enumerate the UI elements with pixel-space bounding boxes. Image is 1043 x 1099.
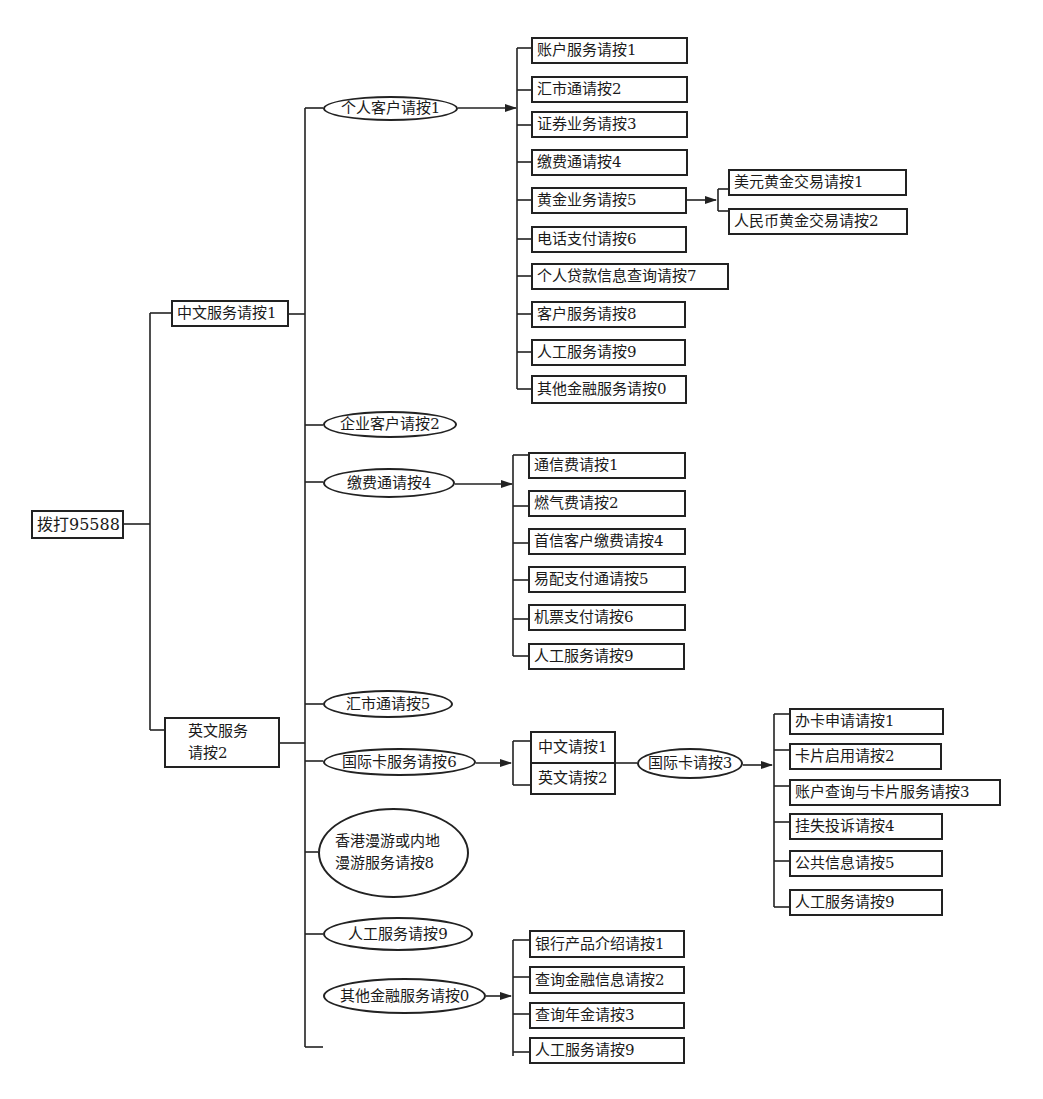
node-label: 易配支付通请按5 — [534, 572, 649, 587]
manual-service-node: 人工服务请按9 — [323, 917, 473, 951]
node-label: 查询年金请按3 — [535, 1008, 635, 1023]
node-label: 挂失投诉请按4 — [795, 819, 895, 834]
node-label: 汇市通请按5 — [346, 697, 431, 712]
node-label: 香港漫游或内地漫游服务请按8 — [335, 831, 453, 875]
node-label: 燃气费请按2 — [534, 496, 619, 511]
node-label: 个人贷款信息查询请按7 — [537, 269, 697, 284]
connector-lines — [0, 0, 1043, 1099]
personal-item: 人工服务请按9 — [531, 339, 686, 366]
payment-item: 机票支付请按6 — [528, 604, 686, 631]
intl-card-item: 卡片启用请按2 — [789, 743, 942, 770]
roaming-service-node: 香港漫游或内地漫游服务请按8 — [318, 808, 469, 898]
personal-item: 账户服务请按1 — [531, 37, 688, 64]
node-label: 黄金业务请按5 — [537, 193, 637, 208]
node-label: 其他金融服务请按0 — [537, 382, 667, 397]
personal-item: 证券业务请按3 — [531, 111, 688, 138]
node-label: 通信费请按1 — [534, 458, 619, 473]
payment-item: 通信费请按1 — [528, 452, 686, 479]
node-label: 美元黄金交易请按1 — [734, 175, 864, 190]
intl-card-service-node: 国际卡服务请按6 — [323, 748, 476, 776]
chinese-service-node: 中文服务请按1 — [171, 300, 289, 327]
personal-item: 个人贷款信息查询请按7 — [531, 263, 729, 290]
node-label: 人工服务请按9 — [534, 649, 634, 664]
node-label: 人工服务请按9 — [535, 1043, 635, 1058]
node-label: 缴费通请按4 — [537, 155, 622, 170]
personal-item: 汇市通请按2 — [531, 76, 688, 103]
other-financial-item: 人工服务请按9 — [529, 1037, 685, 1064]
node-label: 公共信息请按5 — [795, 856, 895, 871]
intl-card-item: 公共信息请按5 — [789, 850, 943, 877]
root-node: 拨打95588 — [31, 510, 124, 539]
node-label: 银行产品介绍请按1 — [535, 937, 665, 952]
node-label: 卡片启用请按2 — [795, 749, 895, 764]
intl-card-item: 办卡申请请按1 — [789, 708, 944, 735]
root-label: 拨打95588 — [37, 517, 120, 533]
node-label: 人工服务请按9 — [795, 895, 895, 910]
node-label: 人工服务请按9 — [348, 927, 448, 942]
other-financial-node: 其他金融服务请按0 — [323, 978, 486, 1014]
node-label: 办卡申请请按1 — [795, 714, 895, 729]
intl-card-item: 账户查询与卡片服务请按3 — [789, 779, 1001, 806]
node-label: 首信客户缴费请按4 — [534, 534, 664, 549]
other-financial-item: 查询金融信息请按2 — [529, 966, 685, 994]
node-label: 企业客户请按2 — [340, 417, 440, 432]
node-label: 汇市通请按2 — [537, 82, 622, 97]
node-label: 机票支付请按6 — [534, 610, 634, 625]
intl-card-language-node: 中文请按1 英文请按2 — [530, 731, 616, 795]
payment-item: 燃气费请按2 — [528, 490, 686, 517]
node-label: 英文服务请按2 — [188, 721, 260, 765]
node-label: 缴费通请按4 — [347, 476, 432, 491]
personal-item: 其他金融服务请按0 — [531, 375, 687, 404]
gold-item: 美元黄金交易请按1 — [728, 169, 907, 196]
node-label: 人民币黄金交易请按2 — [734, 214, 879, 229]
node-label: 电话支付请按6 — [537, 232, 637, 247]
node-label: 账户查询与卡片服务请按3 — [795, 785, 970, 800]
intl-card-node: 国际卡请按3 — [637, 748, 743, 779]
intl-card-item: 挂失投诉请按4 — [789, 813, 943, 840]
other-financial-item: 银行产品介绍请按1 — [529, 930, 685, 958]
personal-customer-node: 个人客户请按1 — [323, 96, 458, 121]
payment-node: 缴费通请按4 — [323, 468, 455, 498]
english-service-node: 英文服务请按2 — [164, 717, 280, 768]
intl-card-item: 人工服务请按9 — [789, 889, 943, 916]
node-label: 国际卡服务请按6 — [342, 755, 457, 770]
english-option-label: 英文请按2 — [532, 762, 614, 793]
personal-item: 黄金业务请按5 — [531, 187, 687, 214]
payment-item: 首信客户缴费请按4 — [528, 528, 686, 555]
payment-item: 易配支付通请按5 — [528, 566, 686, 593]
node-label: 国际卡请按3 — [648, 756, 733, 771]
node-label: 中文服务请按1 — [177, 306, 277, 321]
forex-node: 汇市通请按5 — [323, 690, 453, 718]
node-label: 其他金融服务请按0 — [340, 989, 470, 1004]
other-financial-item: 查询年金请按3 — [529, 1002, 685, 1029]
node-label: 账户服务请按1 — [537, 43, 637, 58]
personal-item: 电话支付请按6 — [531, 226, 687, 253]
personal-item: 缴费通请按4 — [531, 149, 688, 176]
node-label: 人工服务请按9 — [537, 345, 637, 360]
node-label: 个人客户请按1 — [341, 101, 441, 116]
gold-item: 人民币黄金交易请按2 — [728, 208, 908, 235]
node-label: 证券业务请按3 — [537, 117, 637, 132]
personal-item: 客户服务请按8 — [531, 301, 686, 328]
chinese-option-label: 中文请按1 — [532, 733, 614, 762]
corporate-customer-node: 企业客户请按2 — [323, 411, 457, 438]
payment-item: 人工服务请按9 — [528, 643, 685, 670]
node-label: 查询金融信息请按2 — [535, 973, 665, 988]
node-label: 客户服务请按8 — [537, 307, 637, 322]
